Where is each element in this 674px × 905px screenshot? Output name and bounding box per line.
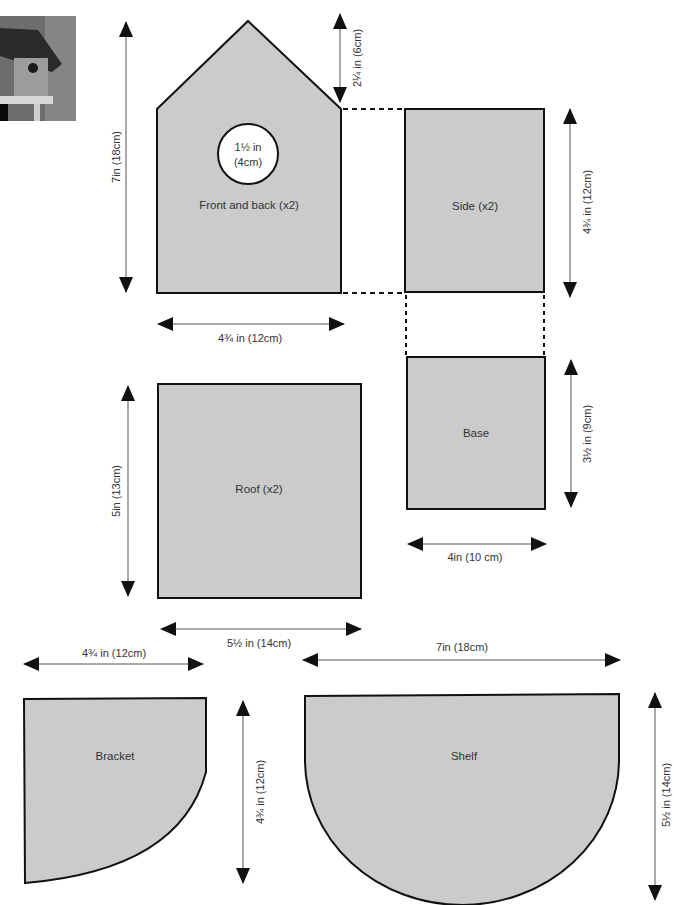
bracket-height-dimension-label: 4¾ in (12cm)	[254, 760, 266, 824]
gable-dimension-label: 2¼ in (6cm)	[351, 29, 363, 87]
side-height-dimension-label: 4¾ in (12cm)	[581, 170, 593, 234]
piece-bracket: Bracket 4¾ in (12cm) 4¾ in (12cm)	[24, 647, 266, 883]
hole-label-line1: 1½ in	[235, 141, 262, 153]
front-height-dimension-label: 7in (18cm)	[110, 131, 122, 183]
piece-shelf: Shelf 7in (18cm) 5½ in (14cm)	[303, 641, 672, 905]
entrance-hole	[218, 124, 278, 184]
template-diagram: 1½ in (4cm) Front and back (x2) 7in (18c…	[0, 0, 674, 905]
piece-roof: Roof (x2) 5in (13cm) 5½ in (14cm)	[110, 384, 361, 649]
hole-label-line2: (4cm)	[234, 156, 262, 168]
side-label: Side (x2)	[452, 200, 498, 212]
piece-front-back: 1½ in (4cm) Front and back (x2) 7in (18c…	[110, 14, 363, 344]
front-width-dimension-label: 4¾ in (12cm)	[218, 332, 282, 344]
shelf-height-dimension-label: 5½ in (14cm)	[660, 763, 672, 827]
bracket-width-dimension-label: 4¾ in (12cm)	[82, 647, 146, 659]
piece-base: Base 3½ in (9cm) 4in (10 cm)	[407, 357, 593, 563]
shelf-width-dimension-label: 7in (18cm)	[436, 641, 488, 653]
shelf-label: Shelf	[451, 750, 478, 762]
base-height-dimension-label: 3½ in (9cm)	[581, 405, 593, 463]
roof-width-dimension-label: 5½ in (14cm)	[227, 637, 291, 649]
bracket-label: Bracket	[96, 750, 136, 762]
bracket-shape	[24, 698, 206, 883]
base-width-dimension-label: 4in (10 cm)	[447, 551, 502, 563]
front-back-label: Front and back (x2)	[199, 199, 299, 211]
piece-side: Side (x2) 4¾ in (12cm)	[405, 109, 593, 297]
base-label: Base	[463, 427, 489, 439]
shelf-shape	[305, 694, 619, 905]
roof-label: Roof (x2)	[235, 483, 282, 495]
roof-height-dimension-label: 5in (13cm)	[110, 465, 122, 517]
